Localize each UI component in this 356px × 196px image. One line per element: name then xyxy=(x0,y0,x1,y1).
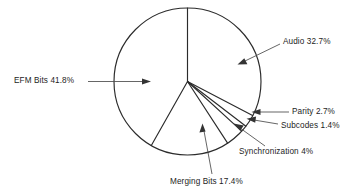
slice-label-subcodes: Subcodes 1.4% xyxy=(281,122,340,130)
pie-chart-figure: EFM Bits 41.8% Audio 32.7% Parity 2.7% S… xyxy=(0,0,356,196)
slice-label-efm-bits: EFM Bits 41.8% xyxy=(14,77,74,85)
slice-label-merging-bits: Merging Bits 17.4% xyxy=(170,178,243,186)
leader-line-subcodes xyxy=(254,120,278,124)
slice-label-parity: Parity 2.7% xyxy=(292,108,335,116)
leader-line-sync xyxy=(240,128,265,146)
pie-chart-graphic xyxy=(0,0,356,196)
slice-label-audio: Audio 32.7% xyxy=(283,38,331,46)
slice-label-synchronization: Synchronization 4% xyxy=(239,148,313,156)
